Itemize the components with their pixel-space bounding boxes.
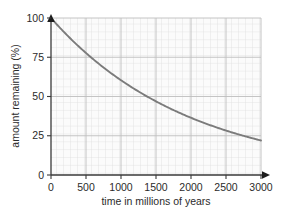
y-axis-title: amount remaining (%) xyxy=(9,44,21,147)
y-tick-label: 0 xyxy=(38,169,44,181)
x-tick-label: 2500 xyxy=(214,181,238,193)
x-tick-label: 1500 xyxy=(144,181,168,193)
x-tick-label: 500 xyxy=(77,181,95,193)
x-tick-label: 1000 xyxy=(109,181,133,193)
y-tick-label: 25 xyxy=(32,129,44,141)
chart-canvas: 050010001500200025003000 0255075100 time… xyxy=(0,0,300,211)
y-tick-label: 50 xyxy=(32,90,44,102)
x-axis-title: time in millions of years xyxy=(101,195,210,207)
y-tick-label: 75 xyxy=(32,51,44,63)
x-tick-label: 0 xyxy=(48,181,54,193)
decay-chart: 050010001500200025003000 0255075100 time… xyxy=(0,0,300,211)
x-tick-label: 3000 xyxy=(249,181,273,193)
x-tick-label: 2000 xyxy=(179,181,203,193)
y-tick-label: 100 xyxy=(26,12,44,24)
